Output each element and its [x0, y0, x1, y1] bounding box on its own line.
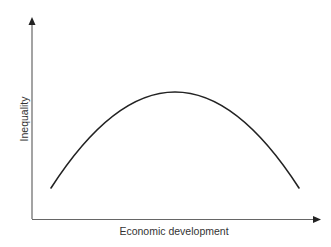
x-axis-label: Economic development: [119, 225, 228, 237]
x-axis-arrow-icon: [313, 216, 321, 223]
kuznets-curve-diagram: Economic development Inequality: [0, 0, 331, 247]
x-axis: [32, 216, 321, 223]
y-axis-arrow-icon: [29, 17, 36, 25]
y-axis-label: Inequality: [18, 96, 30, 142]
y-axis: [29, 17, 36, 219]
inequality-curve: [51, 92, 299, 188]
